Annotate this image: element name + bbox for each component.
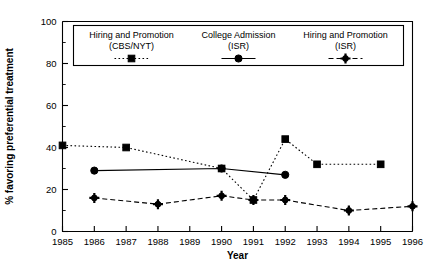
series-1-point-0	[91, 167, 98, 174]
series-1-point-2	[282, 171, 289, 178]
y-tick-label: 20	[46, 184, 57, 195]
legend-label-0-line1: Hiring and Promotion	[89, 30, 174, 40]
x-axis-title: Year	[227, 250, 248, 261]
series-2-point-2-cross	[217, 191, 227, 201]
series-0-point-0	[59, 142, 66, 149]
y-tick-label: 40	[46, 142, 57, 153]
series-0-point-5	[314, 161, 321, 168]
chart-canvas: 0204060801001985198619871988198919901991…	[0, 0, 432, 279]
legend-label-0-line2: (CBS/NYT)	[109, 41, 154, 51]
x-tick-label: 1986	[84, 236, 105, 247]
x-tick-label: 1991	[243, 236, 264, 247]
series-2-point-5-cross	[344, 206, 354, 216]
series-line-1	[94, 169, 285, 175]
series-0-point-4	[282, 136, 289, 143]
y-tick-label: 60	[46, 100, 57, 111]
series-2-point-1-cross	[153, 199, 163, 209]
legend-label-2-line2: (ISR)	[335, 41, 356, 51]
x-tick-label: 1988	[147, 236, 168, 247]
series-0-point-1	[123, 144, 130, 151]
x-tick-label: 1994	[338, 236, 359, 247]
x-tick-label: 1989	[179, 236, 200, 247]
series-2-point-0-cross	[89, 193, 99, 203]
x-tick-label: 1995	[370, 236, 391, 247]
series-2-point-6-cross	[408, 201, 418, 211]
legend-label-1-line2: (ISR)	[228, 41, 249, 51]
y-axis-title: % favoring preferential treatment	[4, 47, 15, 204]
chart-figure: 0204060801001985198619871988198919901991…	[0, 0, 432, 279]
x-tick-label: 1993	[306, 236, 327, 247]
y-tick-label: 80	[46, 58, 57, 69]
legend-marker-1	[235, 55, 242, 62]
legend-marker-0	[128, 55, 135, 62]
y-tick-label: 100	[41, 16, 57, 27]
series-1-point-1	[218, 165, 225, 172]
x-tick-label: 1996	[402, 236, 423, 247]
legend-label-1-line1: College Admission	[201, 30, 275, 40]
x-tick-label: 1990	[211, 236, 232, 247]
x-tick-label: 1992	[275, 236, 296, 247]
x-tick-label: 1985	[52, 236, 73, 247]
legend-label-2-line1: Hiring and Promotion	[303, 30, 388, 40]
series-0-point-6	[377, 161, 384, 168]
x-tick-label: 1987	[116, 236, 137, 247]
series-2-point-4-cross	[280, 195, 290, 205]
